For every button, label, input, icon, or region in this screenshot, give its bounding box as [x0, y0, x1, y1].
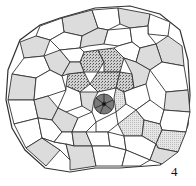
cell-diagram — [0, 0, 196, 186]
figure-number: 4 — [171, 164, 178, 180]
